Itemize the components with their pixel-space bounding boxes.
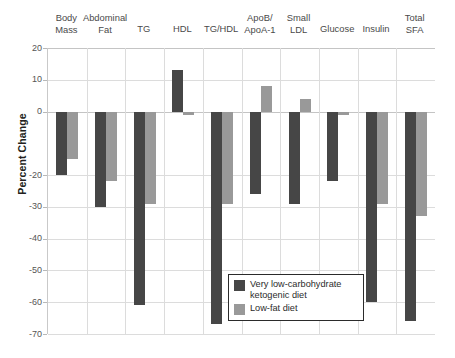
bar-series1-cat1	[106, 112, 117, 182]
bar-series0-cat1	[95, 112, 106, 207]
gridline-x-9	[396, 48, 397, 334]
gridline-y--70	[48, 334, 435, 335]
bar-series1-cat8	[377, 112, 388, 204]
y-tick-label--30: -30	[20, 202, 42, 211]
bar-series0-cat4	[211, 112, 222, 325]
y-tick-label-10: 10	[20, 75, 42, 84]
bar-series1-cat6	[300, 99, 311, 112]
gridline-x-2	[125, 48, 126, 334]
y-tick-label--60: -60	[20, 298, 42, 307]
gridline-x-1	[87, 48, 88, 334]
bar-series0-cat2	[134, 112, 145, 306]
bar-series0-cat8	[366, 112, 377, 303]
y-tick-label--50: -50	[20, 266, 42, 275]
bar-series1-cat9	[416, 112, 427, 217]
legend-swatch-keto	[234, 280, 245, 291]
bar-series0-cat3	[172, 70, 183, 111]
bar-series1-cat4	[222, 112, 233, 204]
bar-series0-cat5	[250, 112, 261, 195]
bar-series0-cat0	[56, 112, 67, 176]
bar-series1-cat2	[145, 112, 156, 204]
y-tick-label-0: 0	[20, 107, 42, 116]
legend-swatch-lowfat	[234, 304, 245, 315]
legend-item-lowfat: Low-fat diet	[234, 303, 358, 315]
y-tick-label--40: -40	[20, 234, 42, 243]
gridline-x-4	[203, 48, 204, 334]
bar-series0-cat9	[405, 112, 416, 322]
legend-label-lowfat: Low-fat diet	[250, 303, 298, 314]
bar-series1-cat7	[338, 112, 349, 115]
bar-series0-cat7	[327, 112, 338, 182]
bar-chart: Percent Change 20100-20-30-40-50-60-70 B…	[0, 0, 455, 358]
bar-series1-cat5	[261, 86, 272, 111]
x-label-9: Total SFA	[386, 12, 443, 35]
gridline-x-3	[164, 48, 165, 334]
legend-label-keto: Very low-carbohydrate ketogenic diet	[250, 279, 341, 300]
y-axis-ticks: 20100-20-30-40-50-60-70	[18, 0, 42, 358]
y-tick-label--70: -70	[20, 330, 42, 339]
y-tick-label--20: -20	[20, 171, 42, 180]
legend-item-keto: Very low-carbohydrate ketogenic diet	[234, 279, 358, 300]
bar-series0-cat6	[289, 112, 300, 204]
y-tick-label-20: 20	[20, 44, 42, 53]
bar-series1-cat0	[67, 112, 78, 160]
chart-legend: Very low-carbohydrate ketogenic diet Low…	[228, 274, 364, 321]
bar-series1-cat3	[183, 112, 194, 115]
y-tick-mark--70	[43, 334, 47, 335]
